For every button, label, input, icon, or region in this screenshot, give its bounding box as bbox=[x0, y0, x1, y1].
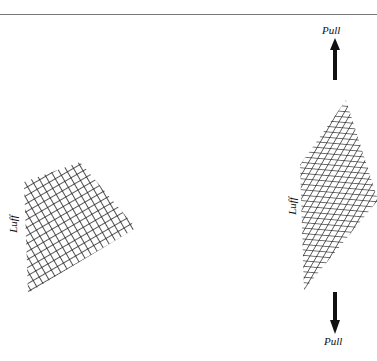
pull-label-top: Pull bbox=[322, 24, 340, 36]
arrow-down-icon bbox=[330, 292, 340, 334]
pull-label-bottom: Pull bbox=[324, 335, 342, 347]
arrow-up-icon bbox=[330, 38, 340, 80]
figure: Pull Pull Luff Luff bbox=[0, 0, 377, 361]
fabric-swatch-right bbox=[300, 100, 377, 290]
luff-label-left: Luff bbox=[7, 215, 19, 233]
fabric-swatch-left bbox=[24, 162, 136, 293]
luff-label-right: Luff bbox=[286, 197, 298, 215]
fabric-diagram bbox=[0, 0, 377, 361]
